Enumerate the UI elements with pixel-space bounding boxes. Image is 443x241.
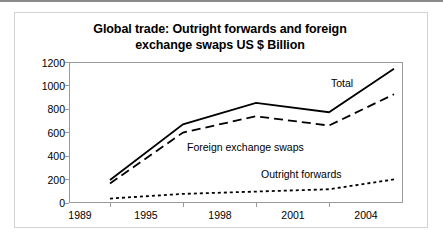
line-foreign-exchange-swaps — [110, 94, 394, 183]
y-tick-mark-0 — [65, 203, 69, 204]
x-tick-label-2004: 2004 — [336, 209, 396, 221]
x-tick-label-1989: 1989 — [50, 209, 110, 221]
y-tick-label-1000: 1000 — [21, 81, 65, 91]
x-tick-mark-1995 — [183, 203, 184, 207]
y-tick-label-0: 0 — [21, 198, 65, 208]
y-tick-label-1200: 1200 — [21, 58, 65, 68]
y-axis: 1200 1000 800 600 400 200 0 — [17, 13, 65, 229]
chart-container: Global trade: Outright forwards and fore… — [14, 12, 428, 228]
x-tick-label-1995: 1995 — [116, 209, 176, 221]
x-tick-mark-1989 — [110, 203, 111, 207]
y-tick-label-800: 800 — [21, 104, 65, 114]
chart-title: Global trade: Outright forwards and fore… — [45, 21, 395, 53]
chart-title-line-2: exchange swaps US $ Billion — [45, 37, 395, 53]
line-outright-forwards — [110, 179, 394, 198]
y-tick-label-400: 400 — [21, 151, 65, 161]
x-tick-mark-2001 — [329, 203, 330, 207]
y-tick-label-200: 200 — [21, 175, 65, 185]
series-annotation-foreign-exchange-swaps: Foreign exchange swaps — [187, 141, 304, 153]
top-divider — [0, 0, 443, 2]
chart-title-line-1: Global trade: Outright forwards and fore… — [45, 21, 395, 37]
x-tick-mark-1998 — [256, 203, 257, 207]
series-annotation-outright-forwards: Outright forwards — [261, 168, 342, 180]
x-tick-label-2001: 2001 — [263, 209, 323, 221]
x-tick-label-1998: 1998 — [190, 209, 250, 221]
series-annotation-total: Total — [331, 77, 353, 89]
y-tick-label-600: 600 — [21, 128, 65, 138]
